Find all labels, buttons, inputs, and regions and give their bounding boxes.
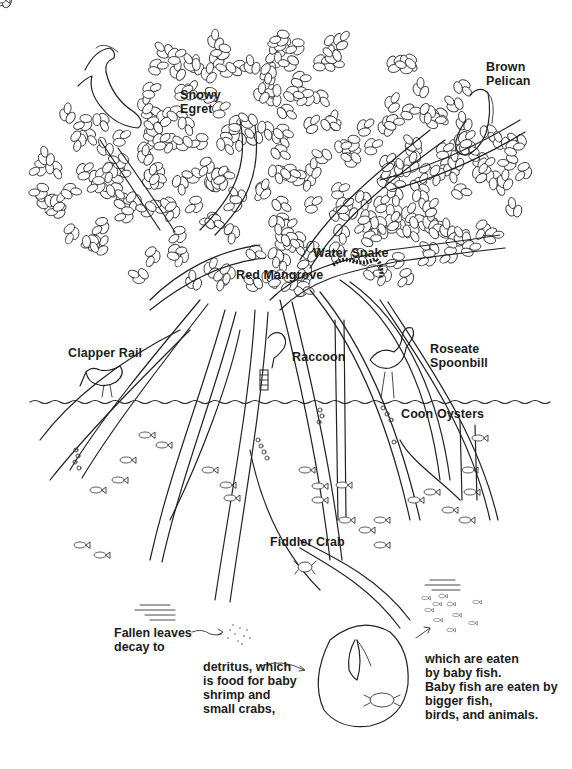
label-snowy-egret: Snowy Egret bbox=[180, 88, 221, 116]
label-line: Pelican bbox=[486, 74, 530, 88]
label-brown-pelican: Brown Pelican bbox=[486, 60, 530, 88]
caption-line: is food for baby bbox=[203, 674, 297, 688]
caption-line: by baby fish. bbox=[425, 666, 558, 680]
baby-fish-group bbox=[422, 594, 482, 631]
caption-baby-fish: which are eaten by baby fish. Baby fish … bbox=[425, 652, 558, 722]
caption-line: decay to bbox=[114, 640, 192, 654]
label-line: Egret bbox=[180, 102, 221, 116]
leaf-litter bbox=[135, 580, 460, 620]
label-fiddler-crab: Fiddler Crab bbox=[270, 535, 345, 549]
detritus-icon bbox=[227, 624, 251, 645]
label-red-mangrove: Red Mangrove bbox=[236, 268, 323, 282]
caption-line: which are eaten bbox=[425, 652, 558, 666]
label-line: Brown bbox=[486, 60, 530, 74]
caption-line: birds, and animals. bbox=[425, 708, 558, 722]
caption-line: bigger fish, bbox=[425, 694, 558, 708]
crab-icon bbox=[364, 693, 400, 707]
label-clapper-rail: Clapper Rail bbox=[68, 346, 142, 360]
caption-line: Fallen leaves bbox=[114, 626, 192, 640]
caption-fallen-leaves: Fallen leaves decay to bbox=[114, 626, 192, 654]
label-line: Snowy bbox=[180, 88, 221, 102]
water-surface bbox=[30, 401, 550, 404]
shrimp-crab-circle bbox=[318, 625, 408, 727]
caption-detritus: detritus, which is food for baby shrimp … bbox=[203, 660, 297, 716]
caption-line: small crabs, bbox=[203, 702, 297, 716]
clapper-rail-icon bbox=[80, 366, 122, 397]
label-line: Spoonbill bbox=[430, 356, 488, 370]
canopy-leaves bbox=[25, 26, 538, 302]
caption-line: Baby fish are eaten by bbox=[425, 680, 558, 694]
prop-roots bbox=[40, 280, 498, 628]
label-water-snake: Water Snake bbox=[313, 246, 389, 260]
label-roseate-spoonbill: Roseate Spoonbill bbox=[430, 342, 488, 370]
shrimp-icon bbox=[349, 640, 371, 680]
label-line: Roseate bbox=[430, 342, 488, 356]
caption-line: detritus, which bbox=[203, 660, 297, 674]
label-raccoon: Raccoon bbox=[292, 350, 346, 364]
label-coon-oysters: Coon Oysters bbox=[401, 407, 484, 421]
caption-line: shrimp and bbox=[203, 688, 297, 702]
